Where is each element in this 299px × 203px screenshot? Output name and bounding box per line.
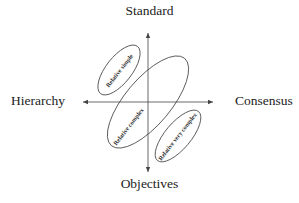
region-relative-very-complex: Relative very complex: [147, 103, 208, 169]
quadrant-diagram: Relative simple Relative complex Relativ…: [0, 0, 299, 203]
region-relative-simple: Relative simple: [90, 38, 147, 101]
region-label: Relative simple: [104, 52, 135, 88]
